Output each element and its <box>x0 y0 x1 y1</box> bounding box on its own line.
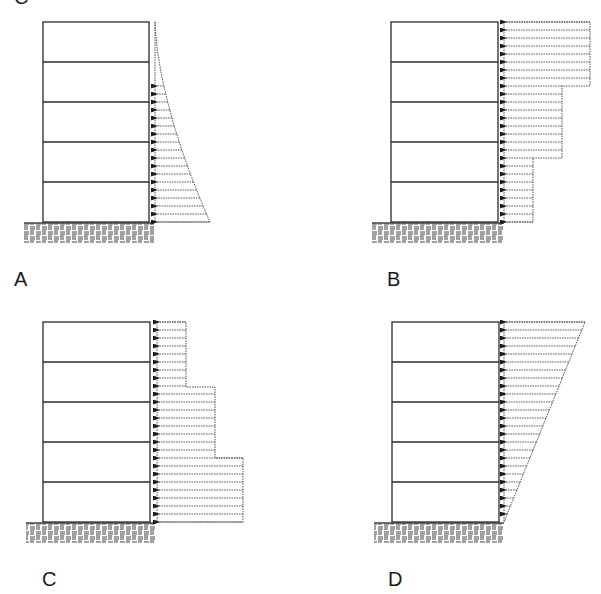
load-diagram <box>157 322 243 522</box>
load-triangle <box>504 322 585 522</box>
building-frame <box>43 322 150 522</box>
load-outline <box>157 322 243 522</box>
panel-d: D <box>374 322 585 590</box>
panel-label-d: D <box>388 568 402 590</box>
ground-hatch <box>26 523 156 543</box>
load-curve <box>155 22 210 222</box>
building-frame <box>391 22 498 222</box>
panel-label-a: A <box>14 268 28 290</box>
building-frame <box>43 22 149 222</box>
panel-b: B <box>372 22 590 290</box>
ground-hatch <box>24 223 154 243</box>
ground-hatch <box>372 223 504 243</box>
load-diagram <box>504 22 590 222</box>
lateral-load-diagram: C ABCD <box>0 0 601 594</box>
ground-hatch <box>374 523 504 543</box>
panel-c: C <box>26 322 243 590</box>
building-frame <box>392 322 499 522</box>
load-diagram <box>155 22 210 222</box>
panel-label-c: C <box>42 568 56 590</box>
partial-label-c: C <box>14 0 28 8</box>
panel-label-b: B <box>387 268 400 290</box>
panel-a: A <box>14 22 210 290</box>
load-diagram <box>504 322 585 522</box>
load-outline <box>504 22 590 222</box>
